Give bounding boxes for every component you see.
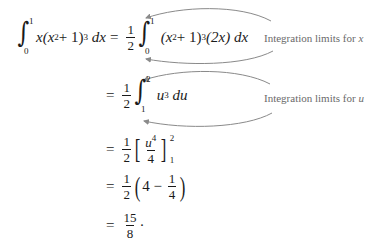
coefficient-fraction: 12: [122, 81, 131, 110]
quarter-fraction: 14: [168, 172, 177, 201]
equals-sign: =: [106, 217, 114, 234]
integral-sign: ∫ 1 0: [137, 22, 151, 52]
integral-sign: ∫ 1 0: [16, 22, 30, 52]
annotation-limits-u: Integration limits for u: [264, 92, 364, 104]
equals-sign: =: [106, 141, 114, 158]
annotation-limits-x: Integration limits for x: [264, 32, 363, 44]
equals-sign: =: [106, 178, 114, 195]
evaluation-limits: 21: [170, 133, 175, 165]
equation-line-3: = 12 [ u44 ] 21: [102, 133, 174, 165]
arrow-upper-limit-x: [146, 9, 271, 21]
equation-line-5: = 158 ·: [102, 211, 144, 240]
equals-sign: =: [106, 87, 114, 104]
equation-line-1: ∫ 1 0 x(x2 + 1)3 dx = 12 ∫ 1 0 (x2 + 1)3…: [16, 22, 248, 52]
arrow-lower-limit-x: [146, 51, 273, 64]
equals-sign: =: [110, 29, 118, 46]
antiderivative-fraction: u44: [144, 134, 157, 165]
result-fraction: 158: [122, 211, 137, 240]
equation-line-2: = 12 ∫ 2 1 u3 du: [102, 80, 187, 110]
equation-line-4: = 12 ( 4 − 14 ): [102, 172, 188, 201]
coefficient-fraction: 12: [126, 23, 135, 52]
coefficient-fraction: 12: [122, 135, 131, 164]
integrand: x: [36, 29, 43, 46]
integral-sign: ∫ 2 1: [133, 80, 147, 110]
arrow-lower-limit-u: [144, 113, 272, 126]
coefficient-fraction: 12: [122, 172, 131, 201]
